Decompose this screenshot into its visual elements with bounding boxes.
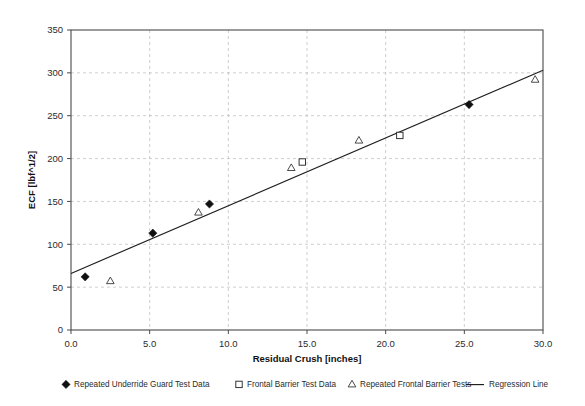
y-axis-tickmarks xyxy=(67,30,71,330)
data-point-open-triangle-s2 xyxy=(195,208,203,215)
legend-item-label: Repeated Frontal Barrier Tests xyxy=(360,380,471,389)
y-tick-label: 0 xyxy=(58,324,63,335)
y-axis-title: ECF [lbf^1/2] xyxy=(26,151,37,209)
scatter-chart: 050100150200250300350 0.05.010.015.020.0… xyxy=(0,0,585,406)
y-axis-tick-labels: 050100150200250300350 xyxy=(47,24,63,335)
x-tick-label: 30.0 xyxy=(534,338,553,349)
x-tick-label: 5.0 xyxy=(143,338,156,349)
x-axis-tickmarks xyxy=(71,330,543,334)
data-point-open-triangle-s2 xyxy=(287,164,295,171)
legend-item[interactable]: Regression Line xyxy=(466,380,549,389)
legend-item-label: Repeated Underride Guard Test Data xyxy=(74,380,210,389)
y-tick-label: 300 xyxy=(47,67,63,78)
legend-item[interactable]: Frontal Barrier Test Data xyxy=(236,380,337,389)
vertical-gridlines xyxy=(150,30,465,330)
x-axis-tick-labels: 0.05.010.015.020.025.030.0 xyxy=(64,338,552,349)
chart-legend: Repeated Underride Guard Test DataFronta… xyxy=(62,380,549,389)
x-tick-label: 0.0 xyxy=(64,338,77,349)
data-point-open-triangle-s2 xyxy=(355,136,363,143)
x-tick-label: 15.0 xyxy=(298,338,317,349)
chart-container: 050100150200250300350 0.05.010.015.020.0… xyxy=(0,0,585,406)
legend-item-label: Regression Line xyxy=(489,380,549,389)
data-point-filled-diamond-s0 xyxy=(205,200,213,208)
data-point-filled-diamond-s0 xyxy=(81,273,89,281)
y-tick-label: 50 xyxy=(52,282,63,293)
legend-item[interactable]: Repeated Frontal Barrier Tests xyxy=(348,380,471,389)
legend-marker-filled-diamond-icon xyxy=(62,380,70,388)
x-tick-label: 25.0 xyxy=(455,338,474,349)
y-tick-label: 150 xyxy=(47,196,63,207)
data-point-filled-diamond-s0 xyxy=(465,100,473,108)
legend-marker-open-square-icon xyxy=(236,381,242,387)
y-tick-label: 200 xyxy=(47,153,63,164)
legend-marker-open-triangle-icon xyxy=(348,380,356,387)
data-point-open-triangle-s2 xyxy=(107,277,115,284)
y-tick-label: 250 xyxy=(47,110,63,121)
legend-item-label: Frontal Barrier Test Data xyxy=(247,380,336,389)
data-point-open-square-s1 xyxy=(299,159,305,165)
data-point-open-square-s1 xyxy=(397,132,403,138)
x-axis-title: Residual Crush [inches] xyxy=(253,353,362,364)
legend-item[interactable]: Repeated Underride Guard Test Data xyxy=(62,380,210,389)
y-tick-label: 350 xyxy=(47,24,63,35)
y-tick-label: 100 xyxy=(47,239,63,250)
data-point-open-triangle-s2 xyxy=(531,76,539,83)
x-tick-label: 10.0 xyxy=(219,338,238,349)
x-tick-label: 20.0 xyxy=(376,338,395,349)
